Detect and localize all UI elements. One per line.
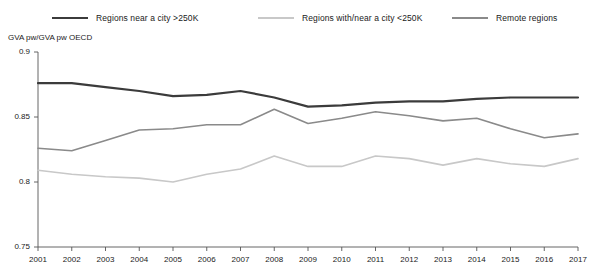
x-tick-label: 2011: [359, 255, 393, 264]
x-tick-label: 2001: [21, 255, 55, 264]
x-tick-label: 2008: [257, 255, 291, 264]
chart-figure: Regions near a city >250K Regions with/n…: [0, 0, 593, 273]
x-tick-label: 2007: [224, 255, 258, 264]
plot-svg: [0, 0, 593, 273]
y-tick-label: 0.75: [4, 242, 30, 251]
tick-marks: [34, 52, 578, 251]
y-tick-label: 0.8: [4, 177, 30, 186]
x-tick-label: 2017: [561, 255, 593, 264]
x-tick-label: 2012: [392, 255, 426, 264]
x-tick-label: 2009: [291, 255, 325, 264]
x-tick-label: 2005: [156, 255, 190, 264]
x-tick-label: 2014: [460, 255, 494, 264]
y-tick-label: 0.9: [4, 47, 30, 56]
series-lines: [38, 83, 578, 182]
x-tick-label: 2015: [494, 255, 528, 264]
x-tick-label: 2002: [55, 255, 89, 264]
x-tick-label: 2013: [426, 255, 460, 264]
y-tick-label: 0.85: [4, 112, 30, 121]
x-tick-label: 2006: [190, 255, 224, 264]
x-tick-label: 2003: [89, 255, 123, 264]
series-line-2: [38, 109, 578, 151]
x-tick-label: 2016: [527, 255, 561, 264]
axis-lines: [38, 52, 578, 247]
plot-area: 0.750.80.850.9 2001200220032004200520062…: [0, 0, 593, 273]
x-tick-label: 2010: [325, 255, 359, 264]
series-line-1: [38, 156, 578, 182]
x-tick-label: 2004: [122, 255, 156, 264]
series-line-0: [38, 83, 578, 106]
